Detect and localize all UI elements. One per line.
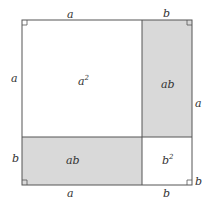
edge-label-right-b: b (195, 175, 202, 188)
edge-label-left-b: b (12, 152, 19, 165)
right-angle-marker-bottom-right (187, 180, 192, 185)
label-ab-right: ab (161, 78, 175, 91)
label-a-squared: a2 (78, 74, 90, 88)
label-ab-bottom: ab (66, 154, 80, 167)
edge-label-right-a: a (195, 97, 202, 110)
right-angle-marker-top-left (22, 20, 27, 25)
edge-label-top-a: a (67, 8, 74, 21)
edge-label-bottom-a: a (67, 187, 74, 200)
region-ab-bottom (22, 137, 142, 185)
edge-label-bottom-b: b (163, 187, 170, 200)
edge-label-left-a: a (11, 72, 18, 85)
square-diagram: a2 ab ab b2 a b a b a b a b (0, 0, 215, 210)
label-b-squared: b2 (162, 153, 174, 167)
edge-label-top-b: b (163, 7, 170, 20)
